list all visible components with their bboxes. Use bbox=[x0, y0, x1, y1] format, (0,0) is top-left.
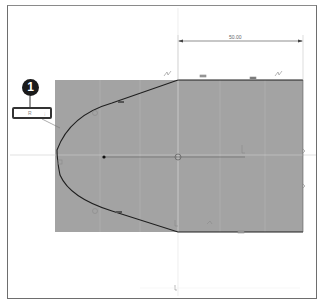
dimension-value-label[interactable]: 50.00 bbox=[229, 34, 242, 40]
origin-axis-icon bbox=[175, 285, 177, 290]
sketch-canvas[interactable] bbox=[0, 0, 327, 306]
dimension-arrow-right-icon bbox=[298, 40, 303, 43]
dimension-input[interactable]: R ⁝ bbox=[12, 107, 52, 119]
profile-region[interactable] bbox=[55, 80, 303, 232]
dimension-arrow-left-icon bbox=[178, 40, 183, 43]
dimension-input-menu-icon[interactable]: ⁝ bbox=[44, 110, 46, 118]
tangent-icon[interactable] bbox=[275, 71, 282, 76]
arc-center-point[interactable] bbox=[102, 155, 105, 158]
horizontal-icon[interactable] bbox=[238, 231, 244, 233]
horizontal-icon[interactable] bbox=[200, 75, 206, 77]
callout-badge: 1 bbox=[22, 79, 39, 96]
tangent-icon[interactable] bbox=[164, 71, 171, 76]
horizontal-icon[interactable] bbox=[116, 211, 122, 213]
dimension-input-value[interactable]: R bbox=[28, 110, 32, 116]
horizontal-icon[interactable] bbox=[118, 101, 124, 103]
horizontal-icon[interactable] bbox=[250, 77, 256, 79]
